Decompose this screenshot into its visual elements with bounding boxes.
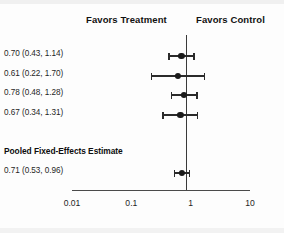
study-estimate-label: 0.70 (0.43, 1.14) — [4, 49, 63, 58]
x-axis-tick: 0.1 — [125, 198, 137, 208]
pooled-point-estimate-marker — [179, 170, 185, 176]
ci-upper-cap — [197, 112, 198, 119]
pooled-section-title: Pooled Fixed-Effects Estimate — [4, 146, 123, 156]
ci-upper-cap — [204, 73, 205, 80]
bottom-border — [0, 228, 284, 233]
forest-plot: Favors Treatment Favors Control Pooled F… — [0, 0, 284, 233]
study-estimate-label: 0.78 (0.48, 1.28) — [4, 88, 63, 97]
x-axis-line — [72, 190, 250, 191]
header-favors-treatment: Favors Treatment — [86, 14, 167, 25]
ci-upper-cap — [193, 53, 194, 60]
point-estimate-marker — [178, 53, 184, 59]
x-axis-tick: 10 — [245, 198, 255, 208]
pooled-estimate-label: 0.71 (0.53, 0.96) — [4, 166, 63, 175]
x-axis-tick: 0.01 — [64, 198, 81, 208]
ci-upper-cap — [189, 170, 190, 177]
point-estimate-marker — [175, 73, 181, 79]
point-estimate-marker — [177, 112, 183, 118]
study-estimate-label: 0.67 (0.34, 1.31) — [4, 108, 63, 117]
ci-lower-cap — [168, 53, 169, 60]
ci-lower-cap — [151, 73, 152, 80]
header-favors-control: Favors Control — [196, 14, 265, 25]
x-axis-tick: 1 — [188, 198, 193, 208]
study-estimate-label: 0.61 (0.22, 1.70) — [4, 69, 63, 78]
ci-lower-cap — [162, 112, 163, 119]
ci-lower-cap — [171, 92, 172, 99]
top-border — [0, 0, 284, 4]
ci-upper-cap — [196, 92, 197, 99]
null-reference-line — [186, 35, 187, 190]
ci-lower-cap — [174, 170, 175, 177]
